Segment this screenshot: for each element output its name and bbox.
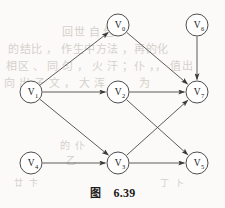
node-subscript-v1: 1 xyxy=(35,92,38,99)
node-v2[interactable]: V2 xyxy=(107,81,129,103)
node-subscript-v2: 2 xyxy=(122,92,125,99)
figure-page: 回世 自 包 的结比 ， 作生中方法 ，再的化 相区 、 同 匀 ， 火 汗 ；… xyxy=(0,0,225,208)
edge-v2-to-v5 xyxy=(127,100,188,155)
edge-v0-to-v7 xyxy=(127,32,188,83)
caption-label: 图 xyxy=(90,187,101,200)
node-v6[interactable]: V6 xyxy=(186,14,208,36)
directed-graph: V0V6V1V2V7V4V3V5 xyxy=(0,0,225,208)
edge-v1-to-v0 xyxy=(40,33,108,85)
node-v5[interactable]: V5 xyxy=(186,152,208,174)
edge-v1-to-v3 xyxy=(40,99,108,155)
node-subscript-v0: 0 xyxy=(122,25,125,32)
node-v7[interactable]: V7 xyxy=(186,81,208,103)
nodes-layer: V0V6V1V2V7V4V3V5 xyxy=(20,14,208,174)
figure-caption: 图6.39 xyxy=(0,183,225,201)
edge-v3-to-v7 xyxy=(127,100,188,155)
node-v3[interactable]: V3 xyxy=(107,152,129,174)
node-subscript-v3: 3 xyxy=(122,163,125,170)
node-v0[interactable]: V0 xyxy=(107,14,129,36)
caption-number: 6.39 xyxy=(114,186,136,200)
node-v1[interactable]: V1 xyxy=(20,81,42,103)
node-v4[interactable]: V4 xyxy=(20,152,42,174)
node-subscript-v5: 5 xyxy=(201,163,204,170)
